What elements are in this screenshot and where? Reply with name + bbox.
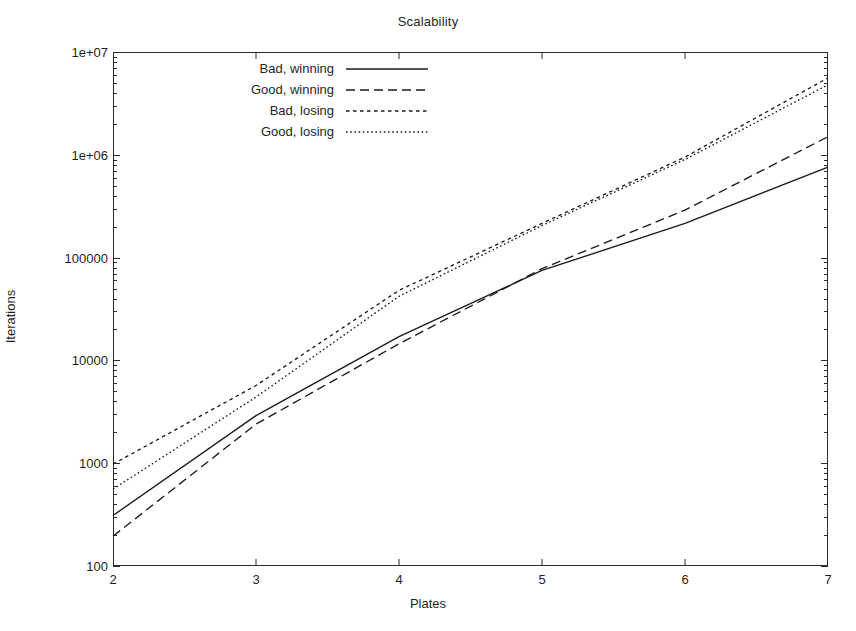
legend-line-sample: [344, 84, 430, 96]
series-line: [113, 85, 828, 489]
series-line: [113, 167, 828, 515]
y-axis-tick-label: 10000: [72, 353, 108, 368]
legend-item-label: Good, winning: [140, 82, 344, 97]
chart-title: Scalability: [0, 14, 856, 29]
series-line: [113, 137, 828, 536]
y-axis-tick-label: 1e+07: [71, 45, 108, 60]
y-axis-title: Iterations: [3, 237, 18, 397]
y-axis-tick-label: 100000: [65, 250, 108, 265]
legend-item: Bad, losing: [140, 100, 430, 121]
x-axis-tick-label: 2: [109, 572, 116, 587]
x-axis-tick-label: 4: [395, 572, 402, 587]
legend-item: Bad, winning: [140, 58, 430, 79]
legend-line-sample: [344, 126, 430, 138]
legend-item-label: Good, losing: [140, 124, 344, 139]
y-axis-tick-mark: [113, 566, 120, 567]
y-axis-tick-label: 1e+06: [71, 147, 108, 162]
y-axis-tick-label: 100: [86, 559, 108, 574]
legend-line-sample: [344, 63, 430, 75]
legend-line-sample: [344, 105, 430, 117]
x-axis-tick-label: 7: [824, 572, 831, 587]
y-axis-tick-mark: [821, 566, 828, 567]
x-axis-tick-label: 5: [538, 572, 545, 587]
chart-figure: Scalability Iterations Plates 1001000100…: [0, 0, 856, 631]
legend-item-label: Bad, losing: [140, 103, 344, 118]
x-axis-tick-label: 3: [252, 572, 259, 587]
legend-item: Good, winning: [140, 79, 430, 100]
legend-item: Good, losing: [140, 121, 430, 142]
legend: Bad, winningGood, winningBad, losingGood…: [140, 58, 430, 142]
x-axis-title: Plates: [0, 596, 856, 611]
x-axis-tick-label: 6: [681, 572, 688, 587]
y-axis-tick-label: 1000: [79, 456, 108, 471]
legend-item-label: Bad, winning: [140, 61, 344, 76]
